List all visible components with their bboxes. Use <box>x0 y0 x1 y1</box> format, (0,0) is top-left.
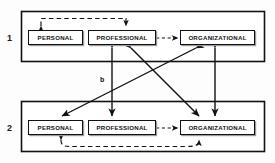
diagram-root: 1 2 a b PERS <box>0 0 275 163</box>
node-label: ORGANIZATIONAL <box>188 124 246 131</box>
node-label: ORGANIZATIONAL <box>188 34 246 41</box>
node-label: PROFESSIONAL <box>96 124 147 131</box>
node-p2-professional[interactable]: PROFESSIONAL <box>88 120 156 135</box>
diagram-canvas <box>0 0 275 163</box>
node-p1-professional[interactable]: PROFESSIONAL <box>88 30 156 45</box>
node-label: PERSONAL <box>38 124 74 131</box>
node-p2-organizational[interactable]: ORGANIZATIONAL <box>180 120 255 135</box>
node-p1-personal[interactable]: PERSONAL <box>28 30 83 45</box>
node-p2-personal[interactable]: PERSONAL <box>28 120 83 135</box>
node-p1-organizational[interactable]: ORGANIZATIONAL <box>180 30 255 45</box>
node-label: PERSONAL <box>38 34 74 41</box>
node-label: PROFESSIONAL <box>96 34 147 41</box>
